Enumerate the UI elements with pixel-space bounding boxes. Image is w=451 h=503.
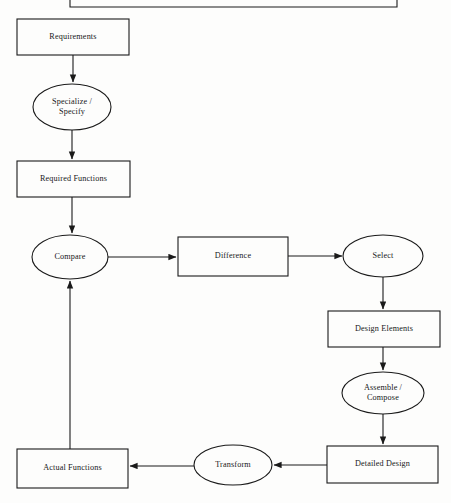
node-design-elements[interactable] (328, 311, 440, 347)
node-top-partial-shape (70, 0, 397, 7)
node-specialize-specify[interactable] (33, 84, 111, 130)
node-compare[interactable] (32, 235, 108, 279)
node-select[interactable] (343, 235, 423, 277)
flowchart-canvas: Requirements Specialize / Specify Requir… (0, 0, 451, 503)
node-actual-functions[interactable] (17, 449, 128, 488)
node-transform[interactable] (194, 445, 272, 485)
node-difference[interactable] (178, 237, 288, 276)
node-required-functions[interactable] (17, 161, 130, 197)
node-requirements[interactable] (17, 19, 129, 55)
node-detailed-design[interactable] (327, 446, 438, 483)
node-assemble-compose[interactable] (342, 372, 424, 414)
